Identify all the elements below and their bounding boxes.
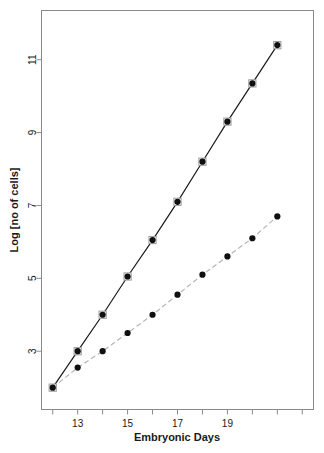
y-tick-label: 9 (27, 129, 38, 135)
x-tick-label: 15 (122, 418, 134, 429)
data-point-marker (124, 330, 130, 336)
data-point-marker (274, 213, 280, 219)
data-point-marker (274, 42, 280, 48)
data-point-marker (249, 80, 255, 86)
plot-canvas: 357911 13151719 Embryonic Days Log [no o… (0, 0, 324, 453)
data-point-marker (100, 348, 106, 354)
data-point-marker (149, 237, 155, 243)
data-point-marker (224, 119, 230, 125)
x-axis-title: Embryonic Days (134, 431, 220, 443)
data-point-marker (199, 159, 205, 165)
y-tick-label: 3 (27, 348, 38, 354)
y-tick-label: 11 (27, 54, 38, 65)
y-tick-label: 5 (27, 275, 38, 281)
data-point-marker (174, 199, 180, 205)
y-axis-title: Log [no of cells] (8, 167, 20, 252)
data-point-marker (249, 235, 255, 241)
series-dashed-line (53, 216, 278, 387)
data-point-marker (100, 312, 106, 318)
data-point-marker (149, 312, 155, 318)
y-tick-label: 7 (27, 202, 38, 208)
data-point-marker (199, 272, 205, 278)
data-point-marker (174, 292, 180, 298)
y-axis-tick-labels: 357911 (27, 54, 38, 354)
data-point-marker (124, 273, 130, 279)
x-tick-label: 17 (172, 418, 184, 429)
x-axis-ticks (53, 410, 303, 415)
data-point-marker (75, 364, 81, 370)
x-tick-label: 19 (222, 418, 234, 429)
x-tick-label: 13 (72, 418, 84, 429)
chart-figure: 357911 13151719 Embryonic Days Log [no o… (0, 0, 324, 453)
data-point-marker (75, 348, 81, 354)
series-solid-line (53, 45, 278, 388)
x-axis-tick-labels: 13151719 (72, 418, 233, 429)
data-point-marker (224, 253, 230, 259)
plot-frame (42, 11, 314, 410)
series-dashed-markers (50, 213, 281, 390)
data-point-marker (50, 385, 56, 391)
